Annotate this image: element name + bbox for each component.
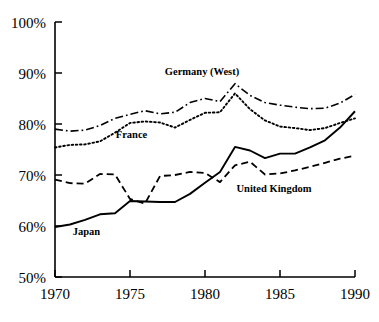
x-axis-tick-label: 1970 <box>40 286 70 302</box>
series-label-japan: Japan <box>73 226 101 237</box>
x-axis-tick-label: 1975 <box>115 286 145 302</box>
series-label-germany-west: Germany (West) <box>165 66 240 78</box>
y-axis-tick-label: 100% <box>11 15 46 31</box>
y-axis-tick-label: 60% <box>19 219 47 235</box>
y-axis-tick-label: 80% <box>19 117 47 133</box>
y-axis-tick-label: 50% <box>19 270 47 286</box>
chart-background <box>0 0 379 322</box>
y-axis-tick-label: 90% <box>19 66 47 82</box>
chart-canvas: 50%60%70%80%90%100% 19701975198019851990… <box>0 0 379 322</box>
y-axis-tick-label: 70% <box>19 168 47 184</box>
line-chart: 50%60%70%80%90%100% 19701975198019851990… <box>0 0 379 322</box>
series-label-france: France <box>116 129 148 140</box>
x-axis-tick-label: 1985 <box>265 286 295 302</box>
series-label-united-kingdom: United Kingdom <box>237 183 312 194</box>
x-axis-tick-label: 1980 <box>190 286 220 302</box>
x-axis-tick-label: 1990 <box>340 286 370 302</box>
